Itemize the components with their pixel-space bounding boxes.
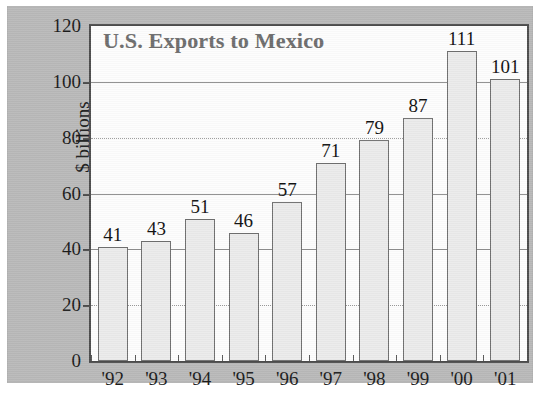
x-axis-tick-mark: [265, 355, 266, 361]
bar-value-label: 87: [391, 96, 445, 115]
bar-value-label: 79: [347, 118, 401, 137]
x-axis-tick-label: '94: [178, 369, 222, 388]
y-axis-tick-label: 60: [35, 184, 81, 203]
bar: [229, 233, 259, 361]
bar: [98, 247, 128, 361]
bar-value-label: 101: [478, 57, 532, 76]
x-axis-tick-label: '93: [135, 369, 179, 388]
y-axis-tick-label: 40: [35, 239, 81, 258]
bar-value-label: 46: [217, 211, 271, 230]
x-axis-tick-label: '96: [265, 369, 309, 388]
y-axis-tick-label: 20: [35, 295, 81, 314]
x-axis-tick-label: '00: [440, 369, 484, 388]
bar-value-label: 71: [304, 141, 358, 160]
bar-value-label: 57: [260, 180, 314, 199]
x-axis-tick-mark: [178, 355, 179, 361]
bar: [447, 51, 477, 361]
bar: [141, 241, 171, 361]
y-axis-tick-label: 120: [35, 16, 81, 35]
bar: [185, 219, 215, 361]
chart-title: U.S. Exports to Mexico: [103, 28, 324, 54]
x-axis-tick-mark: [135, 355, 136, 361]
bar-value-label: 111: [435, 29, 489, 48]
y-axis-tick-label: 100: [35, 72, 81, 91]
x-axis-tick-mark: [440, 355, 441, 361]
x-axis-tick-label: '01: [483, 369, 527, 388]
bar-value-label: 43: [129, 219, 183, 238]
chart-panel-background: $ billions 020406080100120 4143514657717…: [7, 6, 533, 383]
figure-root: $ billions 020406080100120 4143514657717…: [0, 0, 549, 397]
y-axis-tick-label: 0: [35, 351, 81, 370]
x-axis-tick-label: '92: [91, 369, 135, 388]
y-axis-tick-label: 80: [35, 128, 81, 147]
x-axis-tick-mark: [309, 355, 310, 361]
bar: [316, 163, 346, 361]
x-axis-tick-mark: [483, 355, 484, 361]
x-axis-tick-mark: [91, 355, 92, 361]
x-axis-tick-label: '97: [309, 369, 353, 388]
x-axis-tick-label: '98: [353, 369, 397, 388]
bar: [272, 202, 302, 361]
x-axis-tick-mark: [353, 355, 354, 361]
bar: [359, 140, 389, 361]
x-axis-tick-mark: [222, 355, 223, 361]
x-axis-tick-label: '99: [396, 369, 440, 388]
bar: [490, 79, 520, 361]
x-axis-tick-mark: [396, 355, 397, 361]
bar: [403, 118, 433, 361]
x-axis-tick-label: '95: [222, 369, 266, 388]
